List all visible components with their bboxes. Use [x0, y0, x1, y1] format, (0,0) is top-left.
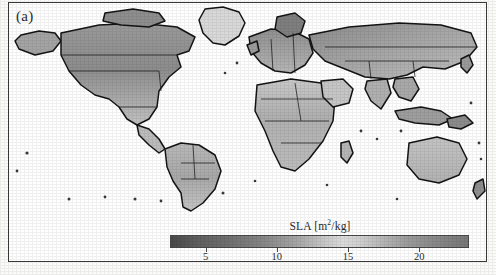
- colorbar-tick-label: 20: [414, 251, 425, 262]
- figure-panel: (a) SLA [m2/kg] 5101520: [0, 0, 496, 275]
- colorbar-title-main: SLA [m: [289, 220, 327, 232]
- colorbar-tick-label: 5: [203, 251, 208, 262]
- colorbar: SLA [m2/kg] 5101520: [170, 218, 470, 262]
- colorbar-tick-label: 10: [272, 251, 283, 262]
- colorbar-tick-labels: 5101520: [170, 251, 469, 265]
- world-map: [9, 3, 486, 218]
- colorbar-title: SLA [m2/kg]: [170, 218, 470, 232]
- colorbar-gradient: [170, 235, 469, 248]
- panel-label: (a): [16, 8, 34, 25]
- region-australia: [407, 137, 467, 183]
- colorbar-tick-label: 15: [343, 251, 354, 262]
- colorbar-title-tail: /kg]: [331, 220, 350, 232]
- world-map-svg: [9, 3, 486, 218]
